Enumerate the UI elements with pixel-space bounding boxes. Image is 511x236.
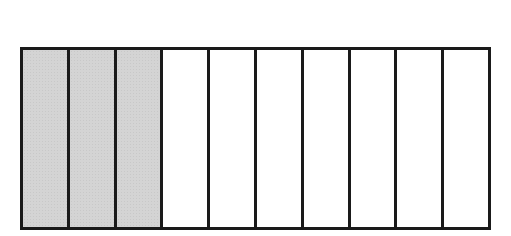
- fraction-bar: [20, 47, 491, 230]
- shaded-segment: [117, 50, 164, 227]
- unshaded-segment: [444, 50, 488, 227]
- shaded-segment: [70, 50, 117, 227]
- unshaded-segment: [210, 50, 257, 227]
- unshaded-segment: [351, 50, 398, 227]
- unshaded-segment: [163, 50, 210, 227]
- unshaded-segment: [304, 50, 351, 227]
- unshaded-segment: [257, 50, 304, 227]
- shaded-segment: [23, 50, 70, 227]
- unshaded-segment: [397, 50, 444, 227]
